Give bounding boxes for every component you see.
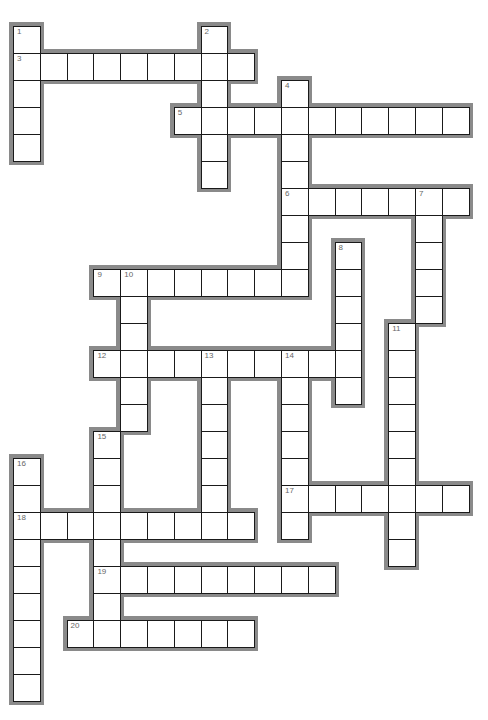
crossword-cell[interactable] [13,107,41,135]
crossword-cell[interactable] [201,269,229,297]
crossword-cell[interactable] [254,350,282,378]
crossword-cell[interactable] [13,566,41,594]
crossword-cell[interactable] [13,134,41,162]
crossword-cell[interactable]: 3 [13,53,41,81]
crossword-cell[interactable] [174,53,202,81]
crossword-cell[interactable] [201,377,229,405]
crossword-cell[interactable] [201,80,229,108]
crossword-cell[interactable] [308,485,336,513]
crossword-cell[interactable] [40,512,68,540]
crossword-cell[interactable] [361,107,389,135]
crossword-cell[interactable] [174,269,202,297]
crossword-cell[interactable]: 19 [93,566,121,594]
crossword-cell[interactable] [120,323,148,351]
crossword-cell[interactable] [335,350,363,378]
crossword-cell[interactable] [415,485,443,513]
crossword-cell[interactable] [201,512,229,540]
crossword-cell[interactable] [93,485,121,513]
crossword-cell[interactable] [67,53,95,81]
crossword-cell[interactable] [281,377,309,405]
crossword-cell[interactable] [388,107,416,135]
crossword-cell[interactable] [201,431,229,459]
crossword-cell[interactable] [120,404,148,432]
crossword-cell[interactable] [442,188,470,216]
crossword-cell[interactable] [120,620,148,648]
crossword-cell[interactable] [120,296,148,324]
crossword-cell[interactable] [147,512,175,540]
crossword-cell[interactable] [361,188,389,216]
crossword-cell[interactable]: 11 [388,323,416,351]
crossword-cell[interactable] [93,512,121,540]
crossword-cell[interactable] [415,107,443,135]
crossword-cell[interactable] [281,242,309,270]
crossword-cell[interactable] [281,161,309,189]
crossword-cell[interactable] [93,458,121,486]
crossword-cell[interactable] [335,188,363,216]
crossword-cell[interactable] [281,269,309,297]
crossword-cell[interactable] [388,431,416,459]
crossword-cell[interactable] [201,458,229,486]
crossword-cell[interactable] [281,404,309,432]
crossword-cell[interactable] [120,350,148,378]
crossword-cell[interactable] [388,512,416,540]
crossword-cell[interactable]: 12 [93,350,121,378]
crossword-cell[interactable] [13,620,41,648]
crossword-cell[interactable]: 15 [93,431,121,459]
crossword-cell[interactable]: 13 [201,350,229,378]
crossword-cell[interactable] [147,620,175,648]
crossword-cell[interactable] [201,134,229,162]
crossword-cell[interactable] [13,674,41,702]
crossword-cell[interactable] [281,107,309,135]
crossword-cell[interactable] [308,107,336,135]
crossword-cell[interactable] [40,53,68,81]
crossword-cell[interactable] [308,566,336,594]
crossword-cell[interactable] [174,566,202,594]
crossword-cell[interactable] [415,242,443,270]
crossword-cell[interactable]: 17 [281,485,309,513]
crossword-cell[interactable] [201,566,229,594]
crossword-cell[interactable]: 7 [415,188,443,216]
crossword-cell[interactable]: 9 [93,269,121,297]
crossword-cell[interactable] [201,53,229,81]
crossword-cell[interactable] [147,53,175,81]
crossword-cell[interactable]: 10 [120,269,148,297]
crossword-cell[interactable]: 14 [281,350,309,378]
crossword-cell[interactable] [281,215,309,243]
crossword-cell[interactable] [281,134,309,162]
crossword-cell[interactable] [335,296,363,324]
crossword-cell[interactable] [281,512,309,540]
crossword-cell[interactable]: 1 [13,26,41,54]
crossword-cell[interactable] [93,593,121,621]
crossword-cell[interactable] [227,269,255,297]
crossword-cell[interactable] [388,485,416,513]
crossword-cell[interactable] [281,458,309,486]
crossword-cell[interactable] [388,458,416,486]
crossword-cell[interactable] [13,647,41,675]
crossword-cell[interactable] [227,107,255,135]
crossword-cell[interactable] [442,485,470,513]
crossword-cell[interactable] [201,404,229,432]
crossword-cell[interactable] [308,350,336,378]
crossword-cell[interactable] [120,53,148,81]
crossword-cell[interactable] [13,485,41,513]
crossword-cell[interactable] [147,269,175,297]
crossword-cell[interactable] [281,431,309,459]
crossword-cell[interactable] [201,620,229,648]
crossword-cell[interactable]: 16 [13,458,41,486]
crossword-cell[interactable] [227,620,255,648]
crossword-cell[interactable] [13,539,41,567]
crossword-cell[interactable] [415,269,443,297]
crossword-cell[interactable] [388,377,416,405]
crossword-cell[interactable] [335,485,363,513]
crossword-cell[interactable] [227,566,255,594]
crossword-cell[interactable] [388,404,416,432]
crossword-cell[interactable]: 6 [281,188,309,216]
crossword-cell[interactable] [174,350,202,378]
crossword-cell[interactable]: 5 [174,107,202,135]
crossword-cell[interactable] [93,539,121,567]
crossword-cell[interactable] [308,188,336,216]
crossword-cell[interactable]: 18 [13,512,41,540]
crossword-cell[interactable] [120,566,148,594]
crossword-cell[interactable] [227,512,255,540]
crossword-cell[interactable] [174,512,202,540]
